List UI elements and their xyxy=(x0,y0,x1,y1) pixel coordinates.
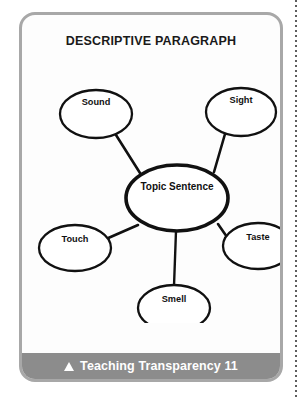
connector-center-sound xyxy=(116,135,140,173)
node-touch-label: Touch xyxy=(62,234,89,244)
node-taste-label: Taste xyxy=(246,232,269,242)
node-touch-ellipse xyxy=(39,225,111,271)
up-triangle-icon xyxy=(64,362,74,371)
transparency-card: DESCRIPTIVE PARAGRAPH Sound xyxy=(19,12,283,382)
node-smell[interactable]: Smell xyxy=(138,285,210,323)
connector-center-touch xyxy=(106,225,138,239)
node-sight[interactable]: Sight xyxy=(206,88,276,136)
node-topic-sentence-ellipse xyxy=(126,165,228,231)
node-topic-sentence-label: Topic Sentence xyxy=(140,181,214,192)
connector-center-sight xyxy=(214,134,225,172)
node-sound-label: Sound xyxy=(82,97,111,107)
descriptive-paragraph-web-diagram: Sound Sight Touch Taste xyxy=(22,53,280,323)
node-taste[interactable]: Taste xyxy=(223,223,280,269)
node-smell-label: Smell xyxy=(162,294,187,304)
dotted-rule xyxy=(295,0,297,397)
node-sight-label: Sight xyxy=(230,95,253,105)
page-title: DESCRIPTIVE PARAGRAPH xyxy=(22,34,280,48)
card-inner: DESCRIPTIVE PARAGRAPH Sound xyxy=(22,15,280,379)
connector-center-smell xyxy=(174,231,176,286)
page-canvas: DESCRIPTIVE PARAGRAPH Sound xyxy=(0,0,306,397)
node-touch[interactable]: Touch xyxy=(39,225,111,271)
footer-bar: Teaching Transparency 11 xyxy=(22,353,280,379)
node-taste-ellipse xyxy=(223,223,280,269)
node-smell-ellipse xyxy=(138,285,210,323)
node-sound[interactable]: Sound xyxy=(60,90,132,138)
node-topic-sentence[interactable]: Topic Sentence xyxy=(126,165,228,231)
footer-label: Teaching Transparency 11 xyxy=(80,359,238,373)
